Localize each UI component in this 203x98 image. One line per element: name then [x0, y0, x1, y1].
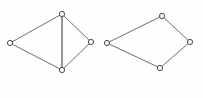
graph-edge-R-top-R-left: [107, 16, 162, 43]
graph-vertex-left-R-left: [104, 40, 109, 45]
right-graph: [104, 13, 192, 70]
graph-edge-L-right-L-bottom: [62, 42, 91, 70]
graph-vertex-bottom-R-bottom: [157, 65, 162, 70]
graph-vertex-top-R-top: [159, 13, 164, 18]
graph-vertex-bottom-L-bottom: [59, 67, 64, 72]
left-graph: [7, 11, 93, 72]
graph-edge-R-right-R-bottom: [160, 42, 190, 68]
graph-edge-L-top-L-right: [62, 14, 91, 42]
graph-edge-R-left-R-bottom: [107, 43, 160, 68]
graph-edge-R-top-R-right: [162, 16, 190, 42]
graph-diagram-canvas: [0, 0, 203, 98]
graph-vertex-top-L-top: [59, 11, 64, 16]
graph-vertex-left-L-left: [7, 40, 12, 45]
graph-vertex-right-L-right: [88, 39, 93, 44]
figure-container: [0, 0, 203, 98]
graph-vertex-right-R-right: [187, 39, 192, 44]
graph-edge-L-top-L-left: [10, 14, 62, 43]
graphs-layer: [7, 11, 192, 72]
graph-edge-L-left-L-bottom: [10, 43, 62, 70]
